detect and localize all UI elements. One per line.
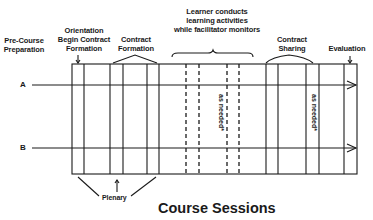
learner-activity-brace	[172, 50, 253, 57]
contract-formation-brace	[113, 55, 157, 63]
diagram-title: Course Sessions	[158, 200, 276, 216]
as-needed-note-1: as needed*	[218, 94, 225, 131]
contract-sharing-brace	[266, 55, 313, 63]
label-plenary: Plenary	[102, 193, 127, 202]
as-needed-note-2: as needed*	[311, 94, 318, 131]
